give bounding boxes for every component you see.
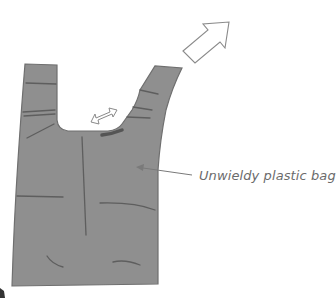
- plastic-bag-shape: [12, 64, 182, 286]
- lift-arrow-icon: [183, 22, 229, 63]
- bag-label: Unwieldy plastic bag: [199, 168, 336, 183]
- corner-shadow: [0, 288, 5, 298]
- double-arrow-icon: [91, 108, 117, 124]
